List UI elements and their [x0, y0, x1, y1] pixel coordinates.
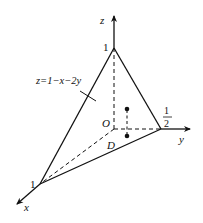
edge-z-to-y: [114, 48, 161, 129]
point-upper: [125, 107, 130, 112]
region-label: D: [106, 139, 115, 151]
origin-label: O: [102, 117, 110, 129]
tetrahedron-diagram: z y x 1 1 1 2 O D z=1−x−2y: [0, 0, 203, 223]
plane-pointer: [80, 91, 96, 101]
point-projection: [125, 134, 130, 139]
y-intercept-numerator: 1: [164, 105, 169, 116]
x-axis-hidden: [40, 129, 114, 184]
z-axis-label: z: [99, 14, 105, 26]
edge-z-to-x: [40, 48, 114, 184]
y-axis-label: y: [178, 133, 184, 145]
x-intercept-label: 1: [30, 178, 36, 190]
edge-x-to-y: [40, 129, 161, 184]
z-intercept-label: 1: [103, 41, 109, 53]
y-intercept-denominator: 2: [164, 118, 169, 129]
x-axis-label: x: [23, 201, 29, 213]
plane-equation-label: z=1−x−2y: [35, 75, 82, 86]
